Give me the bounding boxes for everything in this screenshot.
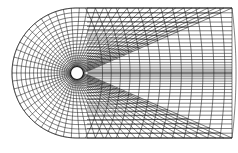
mesh-line — [232, 8, 236, 138]
cylinder-body — [71, 67, 84, 80]
c-grid-mesh — [0, 0, 238, 153]
mesh-lines — [12, 8, 236, 138]
